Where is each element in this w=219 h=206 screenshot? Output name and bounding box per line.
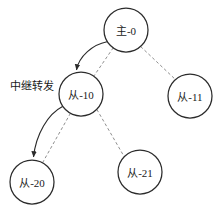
node-label-master-0: 主-0 bbox=[116, 25, 137, 37]
node-master-0[interactable]: 主-0 bbox=[104, 8, 148, 52]
node-label-slave-21: 从-21 bbox=[127, 167, 153, 179]
edge-slave10-slave20-curve bbox=[34, 107, 63, 158]
node-label-slave-11: 从-11 bbox=[177, 91, 202, 103]
node-label-slave-20: 从-20 bbox=[19, 177, 45, 189]
node-slave-10[interactable]: 从-10 bbox=[59, 72, 103, 116]
edge-master0-slave10-curve bbox=[77, 42, 108, 70]
node-slave-11[interactable]: 从-11 bbox=[168, 74, 212, 118]
edge-master0-slave11-dashed bbox=[141, 47, 176, 80]
topology-diagram: 主-0 从-10 从-11 从-20 从-21 中继转发 bbox=[0, 0, 219, 206]
node-slave-21[interactable]: 从-21 bbox=[118, 150, 162, 194]
edge-slave10-slave21-dashed bbox=[97, 110, 124, 157]
node-label-slave-10: 从-10 bbox=[68, 89, 94, 101]
edge-master0-slave10-dashed bbox=[94, 48, 114, 77]
relay-forward-label: 中继转发 bbox=[10, 79, 54, 92]
node-slave-20[interactable]: 从-20 bbox=[10, 160, 54, 204]
diagram-canvas: 主-0 从-10 从-11 从-20 从-21 中继转发 bbox=[0, 0, 219, 206]
